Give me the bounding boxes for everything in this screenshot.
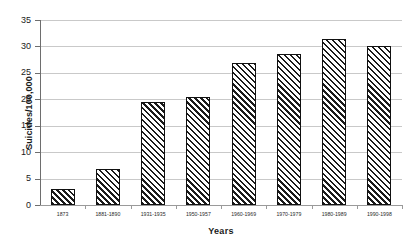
plot-area — [40, 20, 402, 205]
x-tick-label: 1931-1935 — [131, 211, 176, 218]
y-axis-line — [40, 20, 41, 206]
y-tick-label: 30 — [1, 42, 31, 51]
y-tick-mark — [35, 179, 40, 180]
x-axis-title: Years — [40, 226, 402, 236]
x-tick-mark — [221, 205, 222, 209]
y-tick-label: 10 — [1, 148, 31, 157]
bar — [51, 189, 75, 205]
y-tick-label: 0 — [1, 201, 31, 210]
bar — [277, 54, 301, 205]
gridline — [40, 99, 402, 100]
y-tick-label: 5 — [1, 174, 31, 183]
x-tick-label: 1873 — [40, 211, 85, 218]
y-tick-label: 25 — [1, 68, 31, 77]
bar-chart-figure: Suicides/100,000 Years 05101520253035187… — [0, 0, 409, 247]
y-tick-label: 20 — [1, 95, 31, 104]
x-tick-mark — [85, 205, 86, 209]
y-tick-mark — [35, 20, 40, 21]
x-tick-label: 1881-1890 — [85, 211, 130, 218]
gridline — [40, 20, 402, 21]
bar — [367, 46, 391, 205]
x-tick-label: 1970-1979 — [266, 211, 311, 218]
y-tick-mark — [35, 73, 40, 74]
x-tick-mark — [131, 205, 132, 209]
y-tick-mark — [35, 99, 40, 100]
y-axis-title: Suicides/100,000 — [24, 33, 34, 193]
x-tick-label: 1960-1969 — [221, 211, 266, 218]
y-tick-mark — [35, 126, 40, 127]
x-tick-label: 1950-1957 — [176, 211, 221, 218]
bar — [186, 97, 210, 205]
gridline — [40, 46, 402, 47]
x-tick-mark — [402, 205, 403, 209]
bar — [96, 169, 120, 205]
y-tick-mark — [35, 46, 40, 47]
x-tick-label: 1990-1998 — [357, 211, 402, 218]
x-tick-label: 1980-1989 — [312, 211, 357, 218]
y-tick-mark — [35, 152, 40, 153]
gridline — [40, 73, 402, 74]
gridline — [40, 179, 402, 180]
y-tick-label: 35 — [1, 16, 31, 25]
x-tick-mark — [266, 205, 267, 209]
bar — [141, 102, 165, 205]
gridline — [40, 126, 402, 127]
y-tick-label: 15 — [1, 121, 31, 130]
bar — [232, 63, 256, 205]
x-tick-mark — [357, 205, 358, 209]
x-tick-mark — [312, 205, 313, 209]
bar — [322, 39, 346, 206]
gridline — [40, 152, 402, 153]
y-tick-mark — [35, 205, 40, 206]
x-tick-mark — [176, 205, 177, 209]
